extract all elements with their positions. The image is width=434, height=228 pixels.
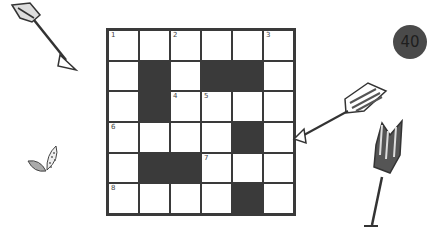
crossword-cell[interactable]: 8 (109, 184, 138, 213)
crossword-cell[interactable] (202, 31, 231, 60)
crossword-cell-black (233, 62, 262, 91)
arrow-icon (0, 0, 90, 80)
crossword-cell[interactable]: 1 (109, 31, 138, 60)
crossword-cell[interactable] (171, 123, 200, 152)
crossword-cell[interactable] (264, 184, 293, 213)
puzzle-number-badge: 40 (393, 25, 427, 59)
clue-number: 2 (173, 32, 177, 39)
clue-number: 7 (204, 155, 208, 162)
clue-number: 8 (111, 185, 115, 192)
crossword-cell-black (233, 123, 262, 152)
crossword-cell[interactable] (171, 62, 200, 91)
crossword-cell[interactable] (264, 154, 293, 183)
crossword-cell[interactable] (264, 123, 293, 152)
crossword-cell[interactable] (171, 184, 200, 213)
puzzle-number: 40 (400, 33, 419, 51)
arrow-icon (360, 115, 420, 228)
crossword-cell-black (140, 92, 169, 121)
crossword-cell[interactable] (140, 184, 169, 213)
crossword-cell[interactable] (109, 62, 138, 91)
crossword-cell[interactable] (233, 31, 262, 60)
clue-number: 3 (266, 32, 270, 39)
crossword-cell[interactable]: 4 (171, 92, 200, 121)
crossword-cell[interactable] (264, 92, 293, 121)
crossword-cell[interactable]: 5 (202, 92, 231, 121)
clue-number: 6 (111, 124, 115, 131)
crossword-grid: 12345678 (106, 28, 296, 216)
crossword-cell-black (140, 154, 169, 183)
crossword-cell[interactable] (233, 92, 262, 121)
crossword-cell[interactable] (202, 123, 231, 152)
crossword-cell[interactable]: 3 (264, 31, 293, 60)
clue-number: 1 (111, 32, 115, 39)
crossword-cell-black (202, 62, 231, 91)
crossword-cell[interactable] (109, 154, 138, 183)
clue-number: 5 (204, 93, 208, 100)
crossword-cell[interactable] (264, 62, 293, 91)
crossword-cell[interactable] (233, 154, 262, 183)
crossword-cell[interactable]: 7 (202, 154, 231, 183)
clue-number: 4 (173, 93, 177, 100)
crossword-cell-black (140, 62, 169, 91)
leaves-icon (20, 135, 70, 180)
crossword-cell[interactable] (140, 123, 169, 152)
crossword-cell[interactable] (202, 184, 231, 213)
crossword-cell[interactable] (109, 92, 138, 121)
crossword-cell-black (233, 184, 262, 213)
crossword-cell[interactable]: 2 (171, 31, 200, 60)
crossword-cell[interactable]: 6 (109, 123, 138, 152)
crossword-cell-black (171, 154, 200, 183)
crossword-cell[interactable] (140, 31, 169, 60)
